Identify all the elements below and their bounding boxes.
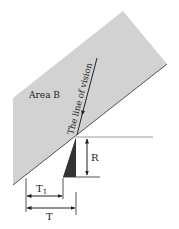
area-b-label: Area B [28,90,60,100]
t-label: T [46,211,53,222]
t1-label-sub: 1 [43,188,47,196]
r-label: R [91,152,99,163]
t1-label: T1 [36,183,47,196]
diagram-canvas: Area B The line of vision R T1 T [0,0,179,229]
